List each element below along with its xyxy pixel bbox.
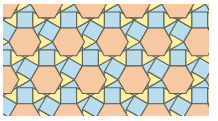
tile-square [17, 12, 33, 28]
tile-square [17, 88, 33, 104]
tile-square [192, 88, 208, 104]
margin-top [0, 0, 218, 4]
tile-square [61, 88, 77, 104]
tile-square [126, 50, 142, 66]
tile-group [0, 0, 218, 121]
tile-square [192, 12, 208, 28]
tile-square [170, 50, 186, 66]
tile-square [148, 12, 164, 28]
tile-square [82, 50, 98, 66]
margin-right [209, 0, 218, 121]
margin-left [0, 0, 3, 121]
tile-square [61, 12, 77, 28]
tile-square [148, 88, 164, 104]
tile-square [104, 12, 120, 28]
tessellation-figure [0, 0, 218, 121]
margin-bottom [0, 116, 218, 121]
tile-square [104, 88, 120, 104]
tile-square [39, 50, 55, 66]
tessellation-canvas [0, 0, 218, 121]
